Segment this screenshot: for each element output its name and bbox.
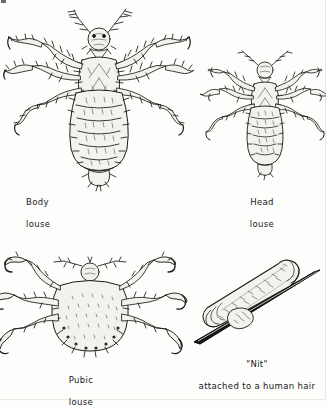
caption-head-louse: Head louse bbox=[232, 186, 292, 241]
head-louse-right-legs bbox=[276, 68, 326, 140]
head-louse-abdomen bbox=[246, 106, 284, 180]
figure-nit bbox=[186, 258, 324, 350]
nit-drawing bbox=[186, 258, 324, 350]
pubic-louse-left-legs bbox=[0, 252, 60, 354]
pubic-louse-right-legs bbox=[120, 252, 187, 354]
body-louse-abdomen bbox=[68, 90, 130, 191]
caption-nit-line1: "Nit" bbox=[192, 359, 322, 370]
caption-pubic-louse-line2: louse bbox=[50, 397, 112, 408]
nit-cement-collar bbox=[227, 308, 253, 329]
caption-pubic-louse-line1: Pubic bbox=[50, 375, 112, 386]
head-louse-left-legs bbox=[200, 68, 254, 140]
caption-body-louse-line1: Body bbox=[26, 197, 50, 208]
body-louse-drawing bbox=[4, 2, 194, 188]
figure-pubic-louse bbox=[4, 252, 176, 362]
figure-head-louse bbox=[209, 44, 321, 184]
caption-nit-line2: attached to a human hair bbox=[192, 381, 322, 392]
caption-body-louse: Body louse bbox=[26, 186, 50, 241]
caption-head-louse-line1: Head bbox=[232, 197, 292, 208]
caption-nit: "Nit" attached to a human hair bbox=[192, 348, 322, 403]
pubic-louse-drawing bbox=[4, 252, 176, 362]
pubic-louse-head bbox=[81, 257, 99, 281]
head-louse-drawing bbox=[209, 44, 321, 184]
caption-head-louse-line2: louse bbox=[232, 219, 292, 230]
pubic-louse-body bbox=[52, 281, 129, 358]
caption-body-louse-line2: louse bbox=[26, 219, 50, 230]
caption-pubic-louse: Pubic louse bbox=[50, 364, 112, 409]
figure-body-louse bbox=[4, 2, 194, 188]
